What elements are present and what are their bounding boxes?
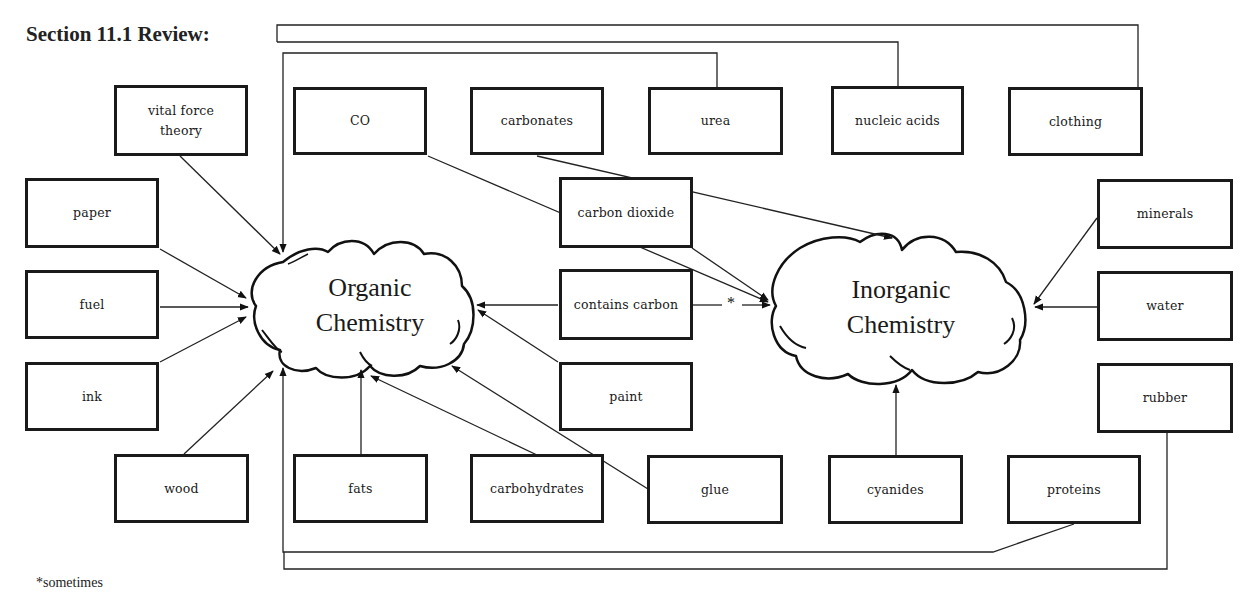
node-proteins: proteins <box>1007 455 1141 524</box>
edge-paint-organic <box>478 310 558 362</box>
node-carbohydrates: carbohydrates <box>470 454 604 523</box>
hub-inorganic-chemistry: Inorganic Chemistry <box>816 272 986 342</box>
hub-organic-chemistry: Organic Chemistry <box>290 270 450 340</box>
node-minerals: minerals <box>1097 179 1233 249</box>
edge-ink-organic <box>160 317 246 362</box>
sometimes-marker: * <box>727 294 735 312</box>
node-ink: ink <box>25 362 159 431</box>
edge-paper-organic <box>160 249 246 298</box>
node-wood: wood <box>114 454 249 523</box>
node-glue: glue <box>647 455 783 524</box>
node-urea: urea <box>648 87 783 155</box>
edge-wood-organic <box>184 371 273 454</box>
edge-minerals-inorganic <box>1034 218 1097 304</box>
node-paper: paper <box>25 178 159 248</box>
node-water: water <box>1097 271 1233 341</box>
edge-carbohydrates-organic <box>371 376 537 455</box>
node-clothing: clothing <box>1008 87 1143 156</box>
node-cyanides: cyanides <box>828 455 963 524</box>
footnote-sometimes: *sometimes <box>36 575 103 591</box>
node-carbon-dioxide: carbon dioxide <box>559 177 693 248</box>
node-vital-force-theory: vital force theory <box>114 85 248 156</box>
node-rubber: rubber <box>1097 363 1233 433</box>
edge-vital-force-organic <box>180 156 280 254</box>
node-nucleic-acids: nucleic acids <box>831 86 964 155</box>
node-fats: fats <box>293 454 428 523</box>
edge-nucleic-acids-organic <box>277 42 898 87</box>
node-paint: paint <box>559 362 693 431</box>
node-contains-carbon: contains carbon <box>559 269 693 340</box>
node-fuel: fuel <box>25 270 159 339</box>
node-carbonates: carbonates <box>470 87 604 155</box>
edge-clothing-organic <box>277 25 1138 88</box>
node-co: CO <box>293 87 427 155</box>
